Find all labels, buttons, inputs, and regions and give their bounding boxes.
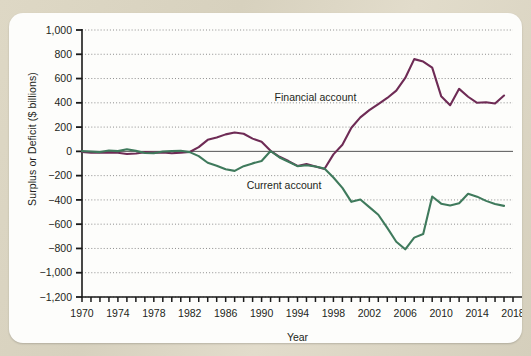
- line-chart: 1,0008006004002000−200−400−600−800−1,000…: [9, 13, 522, 343]
- x-tick-label: 1982: [178, 307, 202, 319]
- x-tick-label: 1978: [142, 307, 166, 319]
- x-tick-label: 2018: [501, 307, 522, 319]
- x-tick-label: 2010: [429, 307, 453, 319]
- x-tick-label: 2014: [465, 307, 489, 319]
- x-tick-label: 2006: [394, 307, 418, 319]
- y-tick-label: 800: [54, 48, 72, 60]
- x-tick-label: 2002: [358, 307, 382, 319]
- y-tick-label: −600: [48, 218, 72, 230]
- y-tick-label: 200: [54, 121, 72, 133]
- chart-card: 1,0008006004002000−200−400−600−800−1,000…: [9, 13, 522, 343]
- y-tick-label: −1,200: [40, 291, 73, 303]
- y-tick-label: 1,000: [46, 24, 72, 36]
- x-tick-label: 1990: [250, 307, 274, 319]
- series-annotation-current-account: Current account: [247, 179, 322, 191]
- series-annotation-financial-account: Financial account: [275, 91, 357, 103]
- plot-area-wrapper: 1,0008006004002000−200−400−600−800−1,000…: [9, 13, 522, 343]
- y-tick-label: 0: [66, 145, 72, 157]
- x-tick-label: 1998: [322, 307, 346, 319]
- x-tick-label: 1986: [214, 307, 238, 319]
- x-axis-title: Year: [287, 331, 309, 343]
- y-tick-label: −1,000: [40, 266, 73, 278]
- y-tick-label: −800: [48, 242, 72, 254]
- x-tick-label: 1970: [70, 307, 94, 319]
- y-tick-label: 600: [54, 72, 72, 84]
- y-tick-label: −400: [48, 194, 72, 206]
- figure-root: 1,0008006004002000−200−400−600−800−1,000…: [0, 0, 531, 356]
- y-tick-label: 400: [54, 96, 72, 108]
- series-line-current-account: [82, 149, 504, 249]
- x-tick-label: 1994: [286, 307, 310, 319]
- y-axis-title: Surplus or Deficit ($ billions): [26, 19, 38, 259]
- x-tick-label: 1974: [106, 307, 130, 319]
- y-tick-label: −200: [48, 169, 72, 181]
